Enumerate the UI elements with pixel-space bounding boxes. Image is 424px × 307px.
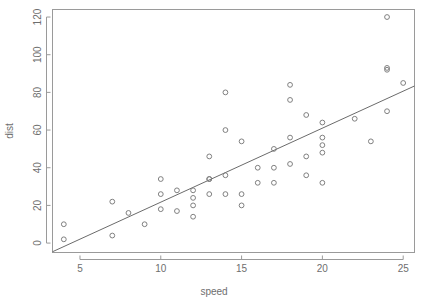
y-tick-label: 60	[33, 124, 44, 136]
y-tick-label: 120	[33, 8, 44, 25]
y-tick-label: 80	[33, 86, 44, 98]
x-tick-label: 15	[236, 263, 248, 274]
y-tick-label: 0	[33, 240, 44, 246]
x-tick-label: 5	[77, 263, 83, 274]
x-tick-label: 20	[317, 263, 329, 274]
y-tick-label: 40	[33, 162, 44, 174]
x-tick-label: 10	[155, 263, 167, 274]
y-tick-label: 20	[33, 199, 44, 211]
y-tick-label: 100	[33, 46, 44, 63]
chart-canvas: 020406080100120 510152025 speed dist	[0, 0, 424, 307]
y-axis-title: dist	[4, 123, 15, 139]
x-tick-label: 25	[398, 263, 410, 274]
plot-background	[0, 0, 424, 307]
scatter-plot: 020406080100120 510152025 speed dist	[0, 0, 424, 307]
x-axis-title: speed	[200, 286, 227, 297]
